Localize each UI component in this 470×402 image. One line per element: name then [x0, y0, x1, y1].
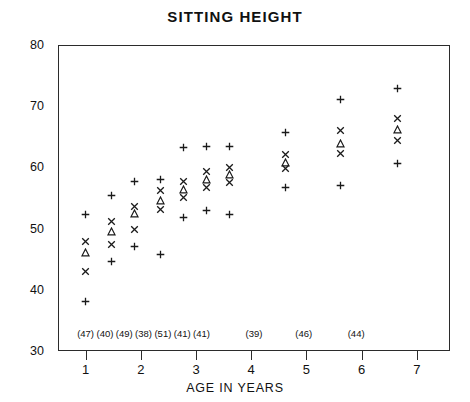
y-axis-tick-label: 50 [18, 222, 44, 236]
maximum-marker [225, 142, 234, 151]
lower-sd-marker [179, 193, 188, 202]
sample-count-label: (39) [234, 328, 274, 339]
lower-sd-marker [130, 225, 139, 234]
y-axis-tick-label: 30 [18, 344, 44, 358]
lower-sd-marker [107, 240, 116, 249]
minimum-marker [81, 297, 90, 306]
upper-sd-marker [179, 177, 188, 186]
x-axis-tick-label: 6 [350, 362, 374, 377]
x-axis-tick-label: 2 [129, 362, 153, 377]
x-axis-tick-label: 7 [405, 362, 429, 377]
mean-marker [130, 209, 139, 218]
minimum-marker [130, 242, 139, 251]
x-axis-tick [141, 351, 142, 360]
sample-count-label: (41) [182, 328, 222, 339]
x-axis-tick-label: 3 [184, 362, 208, 377]
minimum-marker [225, 210, 234, 219]
lower-sd-marker [393, 136, 402, 145]
x-axis-title: AGE IN YEARS [0, 381, 470, 395]
lower-sd-marker [225, 178, 234, 187]
upper-sd-marker [393, 114, 402, 123]
upper-sd-marker [130, 202, 139, 211]
x-axis-tick [417, 351, 418, 360]
x-axis-tick-label: 4 [239, 362, 263, 377]
x-axis-tick-label: 5 [294, 362, 318, 377]
figure: SITTING HEIGHT 304050607080 1234567 (47)… [0, 0, 470, 402]
maximum-marker [107, 191, 116, 200]
upper-sd-marker [336, 126, 345, 135]
maximum-marker [156, 175, 165, 184]
mean-marker [179, 185, 188, 194]
plot-area [58, 45, 450, 351]
x-axis-tick [251, 351, 252, 360]
mean-marker [393, 125, 402, 134]
minimum-marker [393, 159, 402, 168]
x-axis-tick [86, 351, 87, 360]
upper-sd-marker [225, 163, 234, 172]
upper-sd-marker [81, 237, 90, 246]
y-axis-tick-label: 60 [18, 160, 44, 174]
chart-title: SITTING HEIGHT [0, 8, 470, 25]
upper-sd-marker [156, 186, 165, 195]
minimum-marker [179, 213, 188, 222]
maximum-marker [393, 84, 402, 93]
lower-sd-marker [281, 164, 290, 173]
lower-sd-marker [336, 149, 345, 158]
upper-sd-marker [107, 217, 116, 226]
mean-marker [336, 139, 345, 148]
maximum-marker [336, 95, 345, 104]
minimum-marker [107, 257, 116, 266]
sample-count-label: (44) [336, 328, 376, 339]
lower-sd-marker [202, 183, 211, 192]
x-axis-tick [306, 351, 307, 360]
mean-marker [156, 196, 165, 205]
lower-sd-marker [156, 205, 165, 214]
minimum-marker [156, 250, 165, 259]
mean-marker [81, 248, 90, 257]
minimum-marker [202, 206, 211, 215]
y-axis-tick-label: 70 [18, 99, 44, 113]
maximum-marker [130, 177, 139, 186]
mean-marker [225, 170, 234, 179]
maximum-marker [281, 128, 290, 137]
mean-marker [281, 158, 290, 167]
mean-marker [202, 175, 211, 184]
y-axis-tick-label: 80 [18, 38, 44, 52]
x-axis-tick-label: 1 [74, 362, 98, 377]
minimum-marker [336, 181, 345, 190]
lower-sd-marker [81, 267, 90, 276]
maximum-marker [179, 143, 188, 152]
maximum-marker [202, 142, 211, 151]
minimum-marker [281, 183, 290, 192]
maximum-marker [81, 210, 90, 219]
mean-marker [107, 227, 116, 236]
sample-count-label: (46) [284, 328, 324, 339]
upper-sd-marker [202, 167, 211, 176]
y-axis-tick-label: 40 [18, 283, 44, 297]
x-axis-tick [196, 351, 197, 360]
upper-sd-marker [281, 150, 290, 159]
x-axis-tick [362, 351, 363, 360]
